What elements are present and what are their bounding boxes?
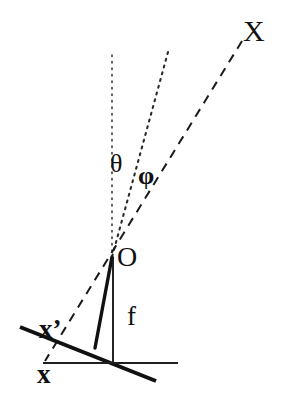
angle-phi-label: φ <box>138 163 154 189</box>
projection-geometry-diagram: X θ φ O f x’ x <box>0 0 290 405</box>
axis-x-label: x <box>37 361 51 388</box>
focal-perpendicular-segment <box>95 257 112 348</box>
angle-theta-label: θ <box>110 151 122 177</box>
focal-f-label: f <box>127 303 136 330</box>
diagram-canvas <box>0 0 290 405</box>
object-ray-dashed-line <box>45 41 242 361</box>
origin-O-label: O <box>117 243 137 271</box>
axis-x-prime-label: x’ <box>39 316 62 343</box>
axis-X-label: X <box>243 16 265 46</box>
